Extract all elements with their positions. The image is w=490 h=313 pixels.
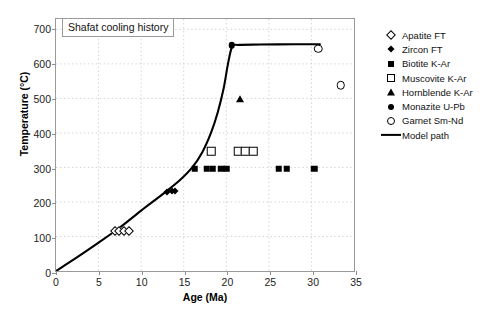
data-point-muscovite-k-ar (207, 147, 216, 156)
legend-item-apatite-ft: Apatite FT (380, 28, 486, 42)
x-tick-label: 30 (307, 276, 319, 288)
legend-item-label: Muscovite K-Ar (402, 73, 466, 84)
y-tick-label: 600 (33, 58, 51, 70)
y-tick-mark (52, 238, 56, 239)
y-tick-label: 100 (33, 232, 51, 244)
x-tick-mark (270, 271, 271, 275)
chart-title: Shafat cooling history (62, 18, 174, 37)
plot-area: 0100200300400500600700 05101520253035 (55, 18, 355, 272)
legend-item-zircon-ft: Zircon FT (380, 42, 486, 56)
legend-item-label: Garnet Sm-Nd (402, 115, 463, 126)
x-axis-label: Age (Ma) (55, 291, 355, 303)
legend-item-label: Model path (402, 130, 449, 141)
x-tick-mark (185, 271, 186, 275)
data-point-biotite-k-ar (283, 165, 290, 172)
legend-item-monazite-u-pb: Monazite U-Pb (380, 99, 486, 113)
data-point-biotite-k-ar (192, 165, 199, 172)
y-tick-mark (52, 64, 56, 65)
x-tick-mark (356, 271, 357, 275)
open-square-icon (380, 71, 402, 85)
x-tick-mark (227, 271, 228, 275)
x-tick-label: 20 (222, 276, 234, 288)
x-tick-mark (142, 271, 143, 275)
filled-diamond-icon (380, 42, 402, 56)
x-tick-label: 5 (96, 276, 102, 288)
y-axis-label: Temperature (°C) (18, 44, 30, 184)
data-point-biotite-k-ar (223, 165, 230, 172)
legend-item-hornblende-k-ar: Hornblende K-Ar (380, 85, 486, 99)
open-diamond-icon (380, 28, 402, 42)
x-tick-mark (56, 271, 57, 275)
y-tick-label: 300 (33, 163, 51, 175)
filled-circle-icon (380, 100, 402, 114)
legend-item-label: Zircon FT (402, 44, 443, 55)
y-tick-mark (52, 29, 56, 30)
legend-item-model-path: Model path (380, 128, 486, 142)
y-tick-mark (52, 99, 56, 100)
data-point-biotite-k-ar (276, 165, 283, 172)
legend-item-label: Biotite K-Ar (402, 58, 450, 69)
data-point-biotite-k-ar (311, 165, 318, 172)
data-point-garnet-sm-nd (336, 81, 345, 90)
legend-item-biotite-k-ar: Biotite K-Ar (380, 57, 486, 71)
y-tick-mark (52, 134, 56, 135)
legend-item-label: Monazite U-Pb (402, 101, 465, 112)
y-tick-label: 500 (33, 93, 51, 105)
data-point-monazite-u-pb (228, 42, 235, 49)
legend-item-muscovite-k-ar: Muscovite K-Ar (380, 71, 486, 85)
legend-item-garnet-sm-nd: Garnet Sm-Nd (380, 114, 486, 128)
x-tick-label: 10 (136, 276, 148, 288)
data-point-hornblende-k-ar (236, 95, 244, 102)
data-points-layer (56, 19, 354, 271)
data-point-garnet-sm-nd (314, 44, 323, 53)
triangle-icon (380, 85, 402, 99)
x-tick-label: 35 (350, 276, 362, 288)
y-tick-mark (52, 169, 56, 170)
legend-item-label: Hornblende K-Ar (402, 87, 473, 98)
chart-legend: Apatite FTZircon FTBiotite K-ArMuscovite… (380, 28, 486, 142)
cooling-history-chart: 0100200300400500600700 05101520253035 Sh… (0, 0, 490, 313)
line-icon (380, 128, 402, 142)
y-tick-label: 400 (33, 128, 51, 140)
data-point-biotite-k-ar (210, 165, 217, 172)
legend-item-label: Apatite FT (402, 30, 446, 41)
x-tick-mark (99, 271, 100, 275)
y-tick-mark (52, 203, 56, 204)
filled-square-icon (380, 57, 402, 71)
y-tick-label: 0 (45, 267, 51, 279)
open-circle-icon (380, 114, 402, 128)
x-tick-label: 25 (264, 276, 276, 288)
x-tick-label: 0 (53, 276, 59, 288)
y-tick-label: 200 (33, 197, 51, 209)
x-tick-mark (313, 271, 314, 275)
data-point-muscovite-k-ar (249, 147, 258, 156)
x-tick-label: 15 (179, 276, 191, 288)
y-tick-label: 700 (33, 23, 51, 35)
